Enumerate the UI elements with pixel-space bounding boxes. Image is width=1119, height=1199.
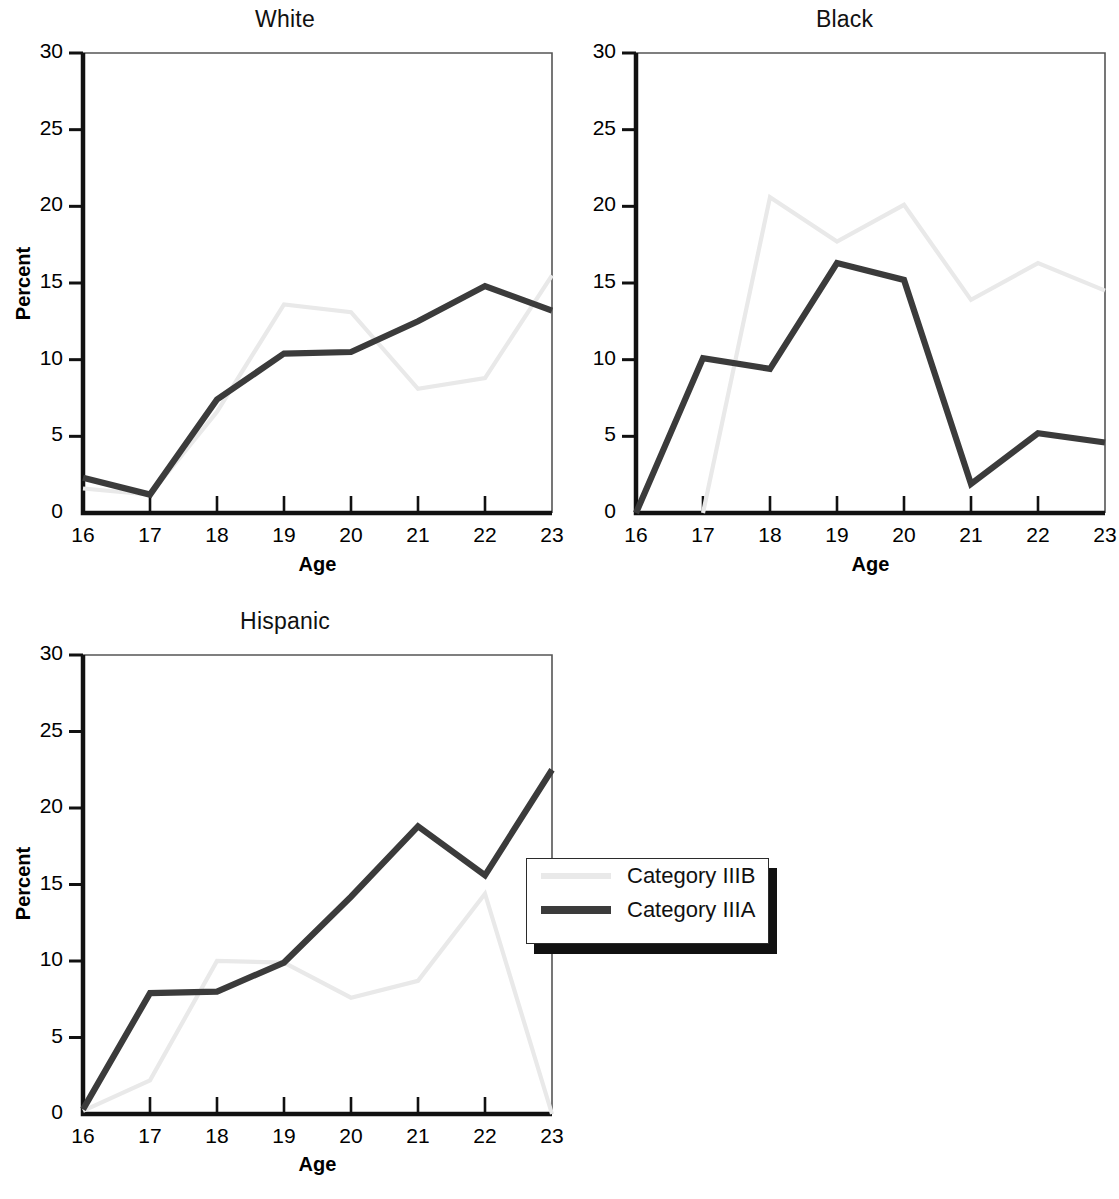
x-tick-label: 21 bbox=[941, 523, 1001, 547]
x-tick-label: 16 bbox=[606, 523, 666, 547]
y-tick-label: 25 bbox=[13, 116, 63, 140]
x-tick-label: 21 bbox=[388, 1124, 448, 1148]
y-tick-label: 10 bbox=[13, 346, 63, 370]
y-tick-label: 20 bbox=[13, 192, 63, 216]
y-tick-label: 20 bbox=[566, 192, 616, 216]
legend-swatch-category-iiib bbox=[541, 873, 611, 879]
plot-area-hispanic bbox=[0, 600, 600, 1199]
panel-black: Black Age 0510152025301617181920212223 bbox=[570, 0, 1119, 600]
legend-label-category-iiia: Category IIIA bbox=[627, 899, 755, 921]
y-tick-label: 25 bbox=[13, 718, 63, 742]
plot-area-white bbox=[0, 0, 570, 600]
x-tick-label: 20 bbox=[321, 1124, 381, 1148]
y-tick-label: 10 bbox=[13, 947, 63, 971]
x-tick-label: 16 bbox=[53, 523, 113, 547]
y-tick-label: 0 bbox=[566, 499, 616, 523]
x-axis-title-hispanic: Age bbox=[83, 1153, 552, 1176]
y-tick-label: 30 bbox=[566, 39, 616, 63]
x-tick-label: 20 bbox=[874, 523, 934, 547]
x-tick-label: 23 bbox=[522, 1124, 582, 1148]
y-tick-label: 0 bbox=[13, 499, 63, 523]
legend-item-category-iiib[interactable]: Category IIIB bbox=[527, 859, 768, 893]
y-tick-label: 30 bbox=[13, 39, 63, 63]
legend-swatch-category-iiia bbox=[541, 906, 611, 914]
legend-item-category-iiia[interactable]: Category IIIA bbox=[527, 893, 768, 927]
y-tick-label: 5 bbox=[13, 422, 63, 446]
y-tick-label: 5 bbox=[566, 422, 616, 446]
x-tick-label: 18 bbox=[740, 523, 800, 547]
x-tick-label: 22 bbox=[1008, 523, 1068, 547]
x-tick-label: 20 bbox=[321, 523, 381, 547]
legend: Category IIIB Category IIIA bbox=[526, 858, 769, 944]
x-tick-label: 22 bbox=[455, 1124, 515, 1148]
y-tick-label: 30 bbox=[13, 641, 63, 665]
panel-white: White Percent Age 0510152025301617181920… bbox=[0, 0, 570, 600]
x-tick-label: 18 bbox=[187, 1124, 247, 1148]
x-tick-label: 18 bbox=[187, 523, 247, 547]
y-tick-label: 15 bbox=[566, 269, 616, 293]
y-tick-label: 15 bbox=[13, 871, 63, 895]
x-tick-label: 16 bbox=[53, 1124, 113, 1148]
y-tick-label: 20 bbox=[13, 794, 63, 818]
panel-hispanic: Hispanic Percent Age 0510152025301617181… bbox=[0, 600, 600, 1199]
y-tick-label: 0 bbox=[13, 1100, 63, 1124]
y-tick-label: 15 bbox=[13, 269, 63, 293]
y-tick-label: 10 bbox=[566, 346, 616, 370]
x-axis-title-black: Age bbox=[636, 553, 1105, 576]
x-tick-label: 19 bbox=[807, 523, 867, 547]
legend-label-category-iiib: Category IIIB bbox=[627, 865, 755, 887]
x-tick-label: 19 bbox=[254, 523, 314, 547]
x-tick-label: 21 bbox=[388, 523, 448, 547]
x-tick-label: 23 bbox=[1075, 523, 1119, 547]
x-tick-label: 17 bbox=[120, 523, 180, 547]
y-tick-label: 5 bbox=[13, 1024, 63, 1048]
x-tick-label: 17 bbox=[673, 523, 733, 547]
x-tick-label: 22 bbox=[455, 523, 515, 547]
x-axis-title-white: Age bbox=[83, 553, 552, 576]
plot-area-black bbox=[570, 0, 1119, 600]
x-tick-label: 17 bbox=[120, 1124, 180, 1148]
x-tick-label: 19 bbox=[254, 1124, 314, 1148]
y-tick-label: 25 bbox=[566, 116, 616, 140]
